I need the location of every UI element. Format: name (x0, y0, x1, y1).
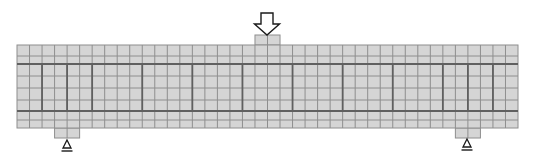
beam-diagram-canvas: Reinforced concrete beam finite element … (0, 0, 534, 163)
load-arrow-icon (255, 13, 280, 35)
down-arrow-icon (255, 13, 280, 35)
pin-support-icon (63, 140, 71, 148)
supports (62, 139, 473, 151)
pin-support-icon (463, 139, 471, 147)
